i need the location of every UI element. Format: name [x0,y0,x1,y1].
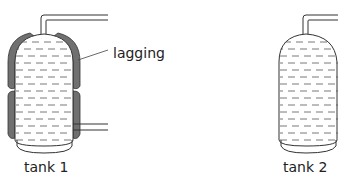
lagging-label: lagging [113,45,165,61]
tank-1-label: tank 1 [24,159,68,175]
tank-1-top-pipe [41,15,108,34]
tank-1 [8,15,108,153]
lagging-leader-line [78,50,108,60]
tank-2 [279,15,338,153]
tank-2-label: tank 2 [283,159,327,175]
diagram-canvas [0,0,338,181]
tank-1-body [15,34,73,146]
tank-2-body [279,34,337,146]
tank-2-top-pipe [303,15,338,34]
